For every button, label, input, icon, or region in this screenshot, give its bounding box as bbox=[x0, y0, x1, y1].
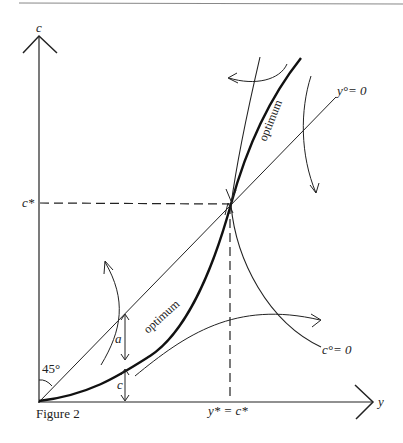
gap-a-label: a bbox=[115, 331, 122, 346]
c-star-guide bbox=[40, 203, 231, 204]
c-axis bbox=[23, 36, 57, 403]
c-axis-arrowhead-icon bbox=[23, 36, 57, 53]
trajectory-lower-right-arrow-icon bbox=[311, 314, 321, 327]
c-dot-zero-label: c°= 0 bbox=[322, 342, 352, 357]
phase-diagram: c y c* y* = c* y°= 0 45° optimum optimum… bbox=[0, 0, 403, 443]
trajectory-right-down bbox=[303, 76, 316, 193]
optimum-label-upper: optimum bbox=[256, 97, 285, 143]
y-dot-zero-label: y°= 0 bbox=[335, 83, 367, 98]
c-axis-label: c bbox=[36, 20, 42, 35]
c-star-label: c* bbox=[22, 195, 35, 210]
figure-caption: Figure 2 bbox=[36, 406, 80, 421]
angle-label: 45° bbox=[42, 361, 60, 376]
trajectory-left-up bbox=[101, 262, 119, 365]
gap-a-indicator bbox=[121, 314, 129, 360]
top-rule bbox=[19, 3, 403, 4]
angle-arc bbox=[39, 380, 52, 386]
y-star-label: y* = c* bbox=[206, 403, 248, 418]
y-axis-label: y bbox=[376, 394, 384, 409]
gap-c-label: c bbox=[117, 377, 123, 392]
y-dot-zero-line bbox=[39, 97, 336, 402]
